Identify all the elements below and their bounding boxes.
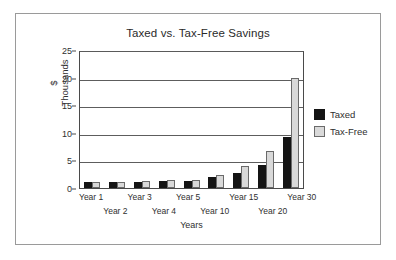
bar-group	[80, 52, 105, 188]
bar-tax-free-year-30	[291, 78, 299, 188]
x-axis-label-year-20: Year 20	[258, 206, 287, 216]
bar-groups	[80, 52, 303, 188]
bar-tax-free-year-4	[167, 180, 175, 188]
bar-taxed-year-15	[233, 173, 241, 188]
bar-taxed-year-1	[84, 182, 92, 188]
x-axis-label-year-30: Year 30	[287, 192, 316, 202]
bar-taxed-year-4	[159, 181, 167, 188]
legend-item-taxed[interactable]: Taxed	[314, 109, 367, 120]
chart-figure: Taxed vs. Tax-Free Savings $ Thousands 0…	[15, 13, 381, 245]
y-tick-label-25: 25	[62, 46, 72, 56]
legend-item-tax-free[interactable]: Tax-Free	[314, 126, 367, 137]
plot-area	[79, 51, 304, 189]
bar-group	[179, 52, 204, 188]
x-axis-label-year-2: Year 2	[103, 206, 127, 216]
bar-group	[154, 52, 179, 188]
bar-group	[229, 52, 254, 188]
x-axis-label-year-10: Year 10	[200, 206, 229, 216]
bar-tax-free-year-5	[192, 180, 200, 188]
x-axis-label-year-5: Year 5	[176, 192, 200, 202]
y-axis-ticks: 0510152025	[46, 51, 76, 189]
bar-taxed-year-5	[184, 181, 192, 188]
bar-tax-free-year-15	[241, 166, 249, 188]
y-tick-mark-5	[72, 161, 76, 162]
bar-taxed-year-20	[258, 165, 266, 188]
x-axis-label-year-3: Year 3	[128, 192, 152, 202]
y-tick-mark-0	[72, 189, 76, 190]
x-axis-label-year-15: Year 15	[229, 192, 258, 202]
bar-tax-free-year-10	[216, 175, 224, 188]
y-tick-label-10: 10	[62, 129, 72, 139]
y-tick-label-15: 15	[62, 101, 72, 111]
y-tick-label-20: 20	[62, 74, 72, 84]
y-tick-mark-20	[72, 78, 76, 79]
bar-tax-free-year-3	[142, 181, 150, 188]
bar-group	[278, 52, 303, 188]
y-tick-mark-25	[72, 51, 76, 52]
x-axis-title: Years	[79, 220, 304, 230]
bar-group	[130, 52, 155, 188]
bar-tax-free-year-20	[266, 151, 274, 188]
x-axis-label-year-1: Year 1	[79, 192, 103, 202]
bar-tax-free-year-1	[92, 182, 100, 188]
legend-swatch-tax-free	[314, 126, 325, 137]
bar-taxed-year-2	[109, 182, 117, 188]
bar-tax-free-year-2	[117, 182, 125, 188]
legend-swatch-taxed	[314, 109, 325, 120]
x-axis-label-year-4: Year 4	[152, 206, 176, 216]
bar-group	[253, 52, 278, 188]
x-axis-row-lower: Year 1Year 2Year 3Year 4Year 5Year 10Yea…	[79, 206, 304, 216]
bar-taxed-year-3	[134, 182, 142, 188]
chart-title: Taxed vs. Tax-Free Savings	[16, 27, 380, 39]
chart-legend: TaxedTax-Free	[314, 109, 367, 137]
bar-group	[105, 52, 130, 188]
y-tick-mark-15	[72, 106, 76, 107]
x-axis-row-upper: Year 1Year 2Year 3Year 4Year 5Year 10Yea…	[79, 192, 304, 202]
bar-taxed-year-30	[283, 137, 291, 188]
legend-label: Tax-Free	[330, 126, 367, 137]
bar-group	[204, 52, 229, 188]
bar-taxed-year-10	[208, 177, 216, 188]
legend-label: Taxed	[330, 109, 355, 120]
y-tick-mark-10	[72, 133, 76, 134]
